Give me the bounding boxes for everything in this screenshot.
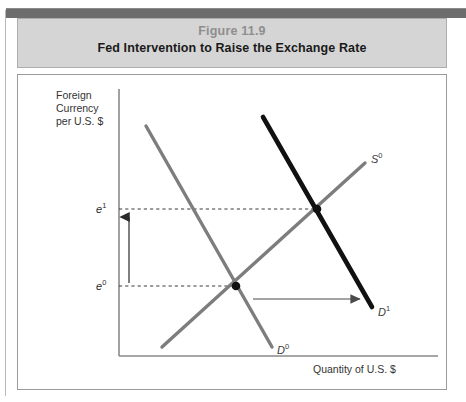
chart-frame: Foreign Currency per U.S. $ e1 e0 S0 D1 … (17, 74, 447, 390)
curve-label-d0: D0 (277, 342, 289, 356)
curve-label-d1-sup: 1 (386, 304, 390, 313)
y-axis-title: Foreign Currency per U.S. $ (56, 89, 103, 128)
y-tick-label-e0-sup: 0 (102, 278, 106, 287)
y-axis-title-line-3: per U.S. $ (56, 115, 103, 128)
curve-label-d1-text: D (378, 306, 386, 318)
curve-label-d1: D1 (378, 304, 390, 318)
figure-page: Figure 11.9 Fed Intervention to Raise th… (0, 0, 466, 402)
y-tick-label-e1: e1 (96, 201, 106, 215)
supply-curve-s0 (162, 163, 365, 347)
curve-label-s0: S0 (371, 151, 383, 165)
curve-label-d0-sup: 0 (285, 342, 289, 351)
demand-curve-d0 (146, 126, 272, 347)
equilibrium-point-e0 (232, 282, 241, 291)
equilibrium-point-e1 (313, 205, 322, 214)
figure-title: Fed Intervention to Raise the Exchange R… (18, 41, 446, 55)
curve-label-s0-sup: 0 (378, 151, 382, 160)
figure-number: Figure 11.9 (18, 24, 446, 38)
top-rule-divider (6, 8, 466, 18)
y-axis-title-line-2: Currency (56, 102, 103, 115)
y-axis-title-line-1: Foreign (56, 89, 103, 102)
y-tick-label-e0: e0 (96, 278, 106, 292)
x-axis-title: Quantity of U.S. $ (313, 363, 396, 375)
curve-label-d0-text: D (277, 344, 285, 356)
y-tick-label-e1-sup: 1 (102, 201, 106, 210)
figure-caption-box: Figure 11.9 Fed Intervention to Raise th… (17, 18, 447, 68)
